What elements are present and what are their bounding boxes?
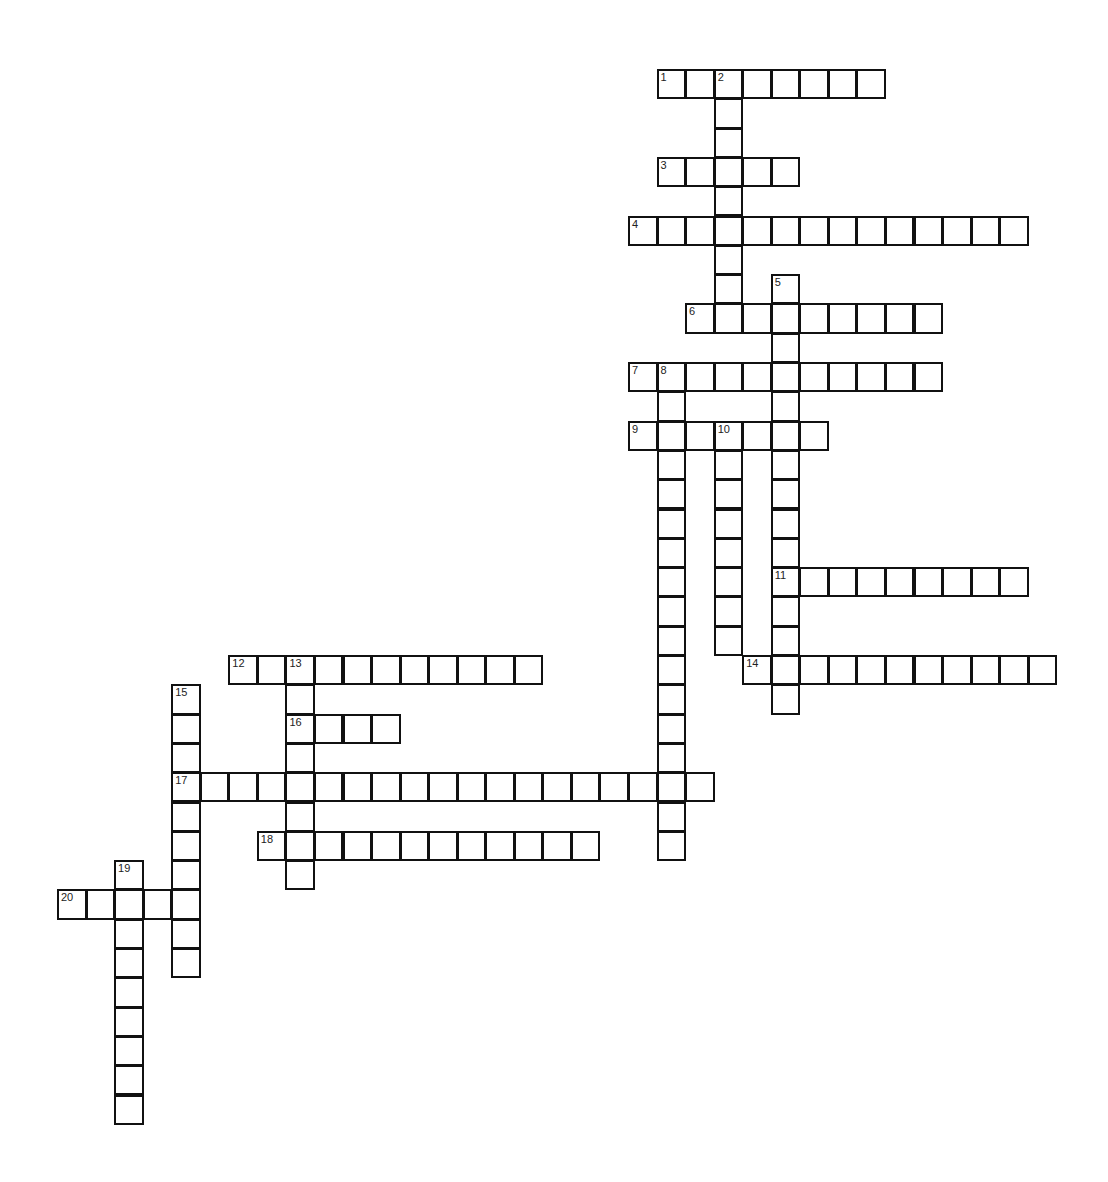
crossword-cell[interactable] bbox=[171, 948, 201, 978]
crossword-cell[interactable] bbox=[828, 303, 858, 333]
letter-input[interactable] bbox=[116, 1067, 142, 1093]
crossword-cell[interactable] bbox=[200, 772, 230, 802]
crossword-cell[interactable]: 1 bbox=[657, 69, 687, 99]
crossword-cell[interactable] bbox=[799, 567, 829, 597]
letter-input[interactable] bbox=[630, 774, 656, 800]
letter-input[interactable] bbox=[773, 393, 799, 419]
letter-input[interactable] bbox=[716, 100, 742, 126]
letter-input[interactable] bbox=[630, 364, 656, 390]
crossword-cell[interactable] bbox=[914, 362, 944, 392]
letter-input[interactable] bbox=[116, 891, 142, 917]
crossword-cell[interactable] bbox=[771, 450, 801, 480]
crossword-cell[interactable] bbox=[400, 772, 430, 802]
letter-input[interactable] bbox=[659, 71, 685, 97]
letter-input[interactable] bbox=[659, 540, 685, 566]
crossword-cell[interactable]: 5 bbox=[771, 274, 801, 304]
letter-input[interactable] bbox=[402, 657, 428, 683]
letter-input[interactable] bbox=[716, 364, 742, 390]
crossword-cell[interactable] bbox=[828, 69, 858, 99]
letter-input[interactable] bbox=[744, 218, 770, 244]
crossword-cell[interactable] bbox=[1028, 655, 1058, 685]
crossword-cell[interactable] bbox=[285, 743, 315, 773]
letter-input[interactable] bbox=[173, 921, 199, 947]
letter-input[interactable] bbox=[659, 745, 685, 771]
letter-input[interactable] bbox=[573, 833, 599, 859]
letter-input[interactable] bbox=[173, 833, 199, 859]
crossword-cell[interactable] bbox=[314, 831, 344, 861]
crossword-cell[interactable]: 12 bbox=[228, 655, 258, 685]
letter-input[interactable] bbox=[716, 569, 742, 595]
letter-input[interactable] bbox=[687, 774, 713, 800]
crossword-cell[interactable] bbox=[114, 1095, 144, 1125]
letter-input[interactable] bbox=[402, 774, 428, 800]
letter-input[interactable] bbox=[230, 657, 256, 683]
crossword-cell[interactable] bbox=[856, 655, 886, 685]
letter-input[interactable] bbox=[430, 833, 456, 859]
letter-input[interactable] bbox=[773, 218, 799, 244]
letter-input[interactable] bbox=[773, 628, 799, 654]
crossword-cell[interactable] bbox=[428, 831, 458, 861]
crossword-cell[interactable] bbox=[971, 216, 1001, 246]
letter-input[interactable] bbox=[1001, 657, 1027, 683]
letter-input[interactable] bbox=[687, 305, 713, 331]
letter-input[interactable] bbox=[659, 159, 685, 185]
crossword-cell[interactable] bbox=[542, 772, 572, 802]
crossword-cell[interactable] bbox=[657, 596, 687, 626]
crossword-cell[interactable] bbox=[856, 362, 886, 392]
crossword-cell[interactable] bbox=[257, 655, 287, 685]
crossword-cell[interactable] bbox=[714, 98, 744, 128]
crossword-cell[interactable] bbox=[685, 157, 715, 187]
letter-input[interactable] bbox=[659, 774, 685, 800]
letter-input[interactable] bbox=[659, 598, 685, 624]
crossword-cell[interactable] bbox=[428, 772, 458, 802]
letter-input[interactable] bbox=[773, 511, 799, 537]
crossword-cell[interactable] bbox=[914, 655, 944, 685]
crossword-cell[interactable] bbox=[343, 655, 373, 685]
letter-input[interactable] bbox=[773, 657, 799, 683]
crossword-cell[interactable] bbox=[657, 772, 687, 802]
letter-input[interactable] bbox=[716, 540, 742, 566]
letter-input[interactable] bbox=[716, 188, 742, 214]
letter-input[interactable] bbox=[830, 305, 856, 331]
crossword-cell[interactable] bbox=[799, 421, 829, 451]
crossword-cell[interactable] bbox=[514, 655, 544, 685]
letter-input[interactable] bbox=[145, 891, 171, 917]
crossword-cell[interactable]: 3 bbox=[657, 157, 687, 187]
letter-input[interactable] bbox=[345, 774, 371, 800]
crossword-cell[interactable] bbox=[457, 655, 487, 685]
letter-input[interactable] bbox=[230, 774, 256, 800]
letter-input[interactable] bbox=[544, 833, 570, 859]
letter-input[interactable] bbox=[173, 716, 199, 742]
letter-input[interactable] bbox=[887, 305, 913, 331]
crossword-cell[interactable] bbox=[714, 362, 744, 392]
crossword-cell[interactable] bbox=[114, 889, 144, 919]
letter-input[interactable] bbox=[687, 71, 713, 97]
crossword-cell[interactable]: 13 bbox=[285, 655, 315, 685]
letter-input[interactable] bbox=[59, 891, 85, 917]
crossword-cell[interactable] bbox=[714, 450, 744, 480]
letter-input[interactable] bbox=[801, 305, 827, 331]
letter-input[interactable] bbox=[944, 569, 970, 595]
crossword-cell[interactable] bbox=[771, 509, 801, 539]
crossword-cell[interactable]: 20 bbox=[57, 889, 87, 919]
crossword-cell[interactable] bbox=[485, 772, 515, 802]
letter-input[interactable] bbox=[744, 159, 770, 185]
letter-input[interactable] bbox=[259, 774, 285, 800]
letter-input[interactable] bbox=[858, 305, 884, 331]
crossword-cell[interactable] bbox=[799, 362, 829, 392]
letter-input[interactable] bbox=[773, 335, 799, 361]
crossword-cell[interactable] bbox=[714, 128, 744, 158]
crossword-cell[interactable] bbox=[771, 596, 801, 626]
letter-input[interactable] bbox=[801, 657, 827, 683]
crossword-cell[interactable] bbox=[628, 772, 658, 802]
letter-input[interactable] bbox=[858, 218, 884, 244]
crossword-cell[interactable]: 6 bbox=[685, 303, 715, 333]
crossword-cell[interactable] bbox=[343, 772, 373, 802]
crossword-cell[interactable] bbox=[171, 714, 201, 744]
crossword-cell[interactable] bbox=[114, 1007, 144, 1037]
crossword-cell[interactable] bbox=[657, 743, 687, 773]
crossword-cell[interactable] bbox=[714, 303, 744, 333]
letter-input[interactable] bbox=[830, 218, 856, 244]
crossword-cell[interactable] bbox=[514, 831, 544, 861]
crossword-cell[interactable] bbox=[171, 831, 201, 861]
